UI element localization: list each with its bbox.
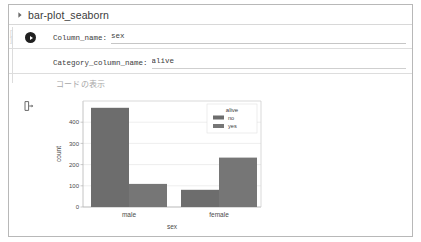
svg-text:male: male	[122, 211, 136, 218]
x-axis-label: sex	[167, 223, 178, 230]
bar-male-no	[91, 108, 129, 207]
show-code-row: コードの表示	[9, 75, 412, 91]
field-label-column-name: Column_name:	[53, 34, 107, 42]
column-name-input[interactable]	[111, 31, 406, 44]
notebook-cell-card: bar-plot_seaborn [ ] Column_name: Catego…	[8, 4, 413, 237]
legend-swatch-no	[213, 116, 224, 120]
chevron-right-icon[interactable]	[15, 10, 25, 20]
form-field-column-name: Column_name:	[9, 27, 412, 49]
svg-text:300: 300	[69, 141, 80, 147]
x-tick-labels: male female	[122, 211, 229, 218]
chart-legend: alive no yes	[207, 104, 257, 133]
field-label-category-column-name: Category_column_name:	[53, 59, 148, 67]
svg-text:0: 0	[76, 204, 80, 210]
bar-chart-svg: 0 100 200 300 400 count	[47, 95, 275, 235]
bar-female-no	[181, 190, 219, 207]
show-code-link[interactable]: コードの表示	[56, 78, 105, 89]
screenshot-root: bar-plot_seaborn [ ] Column_name: Catego…	[0, 0, 421, 242]
legend-label-yes: yes	[228, 123, 237, 129]
legend-swatch-yes	[213, 124, 224, 128]
y-tick-labels: 0 100 200 300 400	[69, 119, 80, 210]
svg-text:female: female	[209, 211, 229, 218]
category-column-name-input[interactable]	[152, 56, 406, 69]
form-field-category-column-name: Category_column_name:	[9, 52, 412, 74]
output-arrow-icon	[23, 100, 37, 114]
svg-text:200: 200	[69, 162, 80, 168]
svg-text:400: 400	[69, 119, 80, 125]
form-title-row: bar-plot_seaborn	[9, 5, 412, 25]
y-axis-label: count	[55, 146, 62, 162]
legend-label-no: no	[228, 115, 234, 121]
bar-female-yes	[219, 158, 257, 207]
legend-title: alive	[226, 107, 239, 113]
svg-text:100: 100	[69, 183, 80, 189]
form-title: bar-plot_seaborn	[28, 9, 109, 21]
bar-male-yes	[129, 184, 167, 207]
bar-chart-figure: 0 100 200 300 400 count	[47, 95, 275, 235]
